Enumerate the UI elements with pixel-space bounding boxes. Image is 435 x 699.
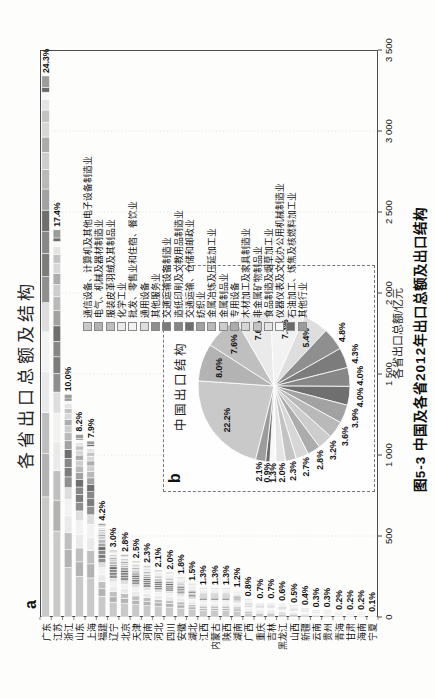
bar-percent-label: 0.3%	[311, 588, 321, 608]
bar-segment	[98, 528, 106, 530]
bar-segment	[98, 558, 106, 562]
legend-swatch-icon	[286, 322, 295, 331]
bar-segment	[53, 274, 61, 285]
legend-swatch-icon	[140, 322, 149, 331]
bar-segment	[166, 600, 174, 603]
bar-segment	[109, 560, 117, 562]
bar-segment	[64, 488, 72, 500]
bar-segment	[211, 611, 219, 617]
bar-segment	[98, 529, 106, 531]
bar-segment	[200, 611, 208, 617]
bar-percent-label: 0.7%	[266, 579, 276, 599]
bar-segment	[76, 480, 84, 487]
legend-swatch-icon	[128, 322, 137, 331]
bar-segment	[87, 578, 95, 617]
pie-percent-label: 4.0%	[355, 366, 365, 386]
bar-segment	[87, 499, 95, 507]
bar-segment	[177, 602, 185, 605]
bar-segment	[109, 567, 117, 570]
bar-segment	[98, 547, 106, 551]
bar-segment	[98, 524, 106, 526]
bar-segment	[222, 608, 230, 610]
bar-segment	[42, 232, 50, 254]
bar-segment	[76, 548, 84, 562]
bar-segment	[143, 583, 151, 585]
bar-segment	[64, 401, 72, 404]
bar-segment	[143, 566, 151, 567]
bar-segment	[132, 588, 140, 592]
bar-segment	[188, 604, 196, 607]
bar-segment	[64, 568, 72, 617]
bar-segment	[211, 608, 219, 610]
legend-item: 其他行业	[297, 156, 308, 331]
bar-segment	[53, 341, 61, 356]
legend-swatch-icon	[117, 322, 126, 331]
bar-segment	[121, 598, 129, 603]
bar-segment	[109, 572, 117, 575]
bar-segment	[177, 590, 185, 592]
bar-segment	[166, 607, 174, 617]
bar-segment	[42, 170, 50, 189]
bar-percent-label: 2.0%	[165, 550, 175, 570]
bar-percent-label: 2.3%	[142, 543, 152, 563]
bar-segment	[132, 585, 140, 588]
bar-segment	[64, 404, 72, 408]
bar-segment	[42, 371, 50, 412]
bar-segment	[76, 460, 84, 466]
bar-segment	[109, 602, 117, 617]
bar-segment	[53, 500, 61, 531]
bar-segment	[98, 537, 106, 540]
bar-segment	[42, 76, 50, 87]
bar-segment	[76, 521, 84, 534]
bar-segment	[233, 609, 241, 611]
bar-segment	[143, 602, 151, 606]
bar-segment	[109, 558, 117, 560]
bar-segment	[143, 575, 151, 577]
bar-segment	[233, 603, 241, 605]
bar-percent-label: 4.2%	[97, 501, 107, 521]
bar-segment	[109, 578, 117, 582]
pie-percent-label: 7.6%	[229, 334, 239, 354]
bar-percent-label: 0.3%	[322, 588, 332, 608]
bar-segment	[121, 555, 129, 556]
bar-segment	[121, 570, 129, 572]
bar-segment	[87, 452, 95, 456]
bar-segment	[245, 613, 253, 617]
bar-segment	[64, 467, 72, 477]
bar-segment	[109, 587, 117, 592]
bar-segment	[64, 419, 72, 425]
bar-segment	[143, 581, 151, 583]
bar-segment	[132, 561, 140, 562]
bar-segment	[98, 568, 106, 575]
legend-swatch-icon	[185, 322, 194, 331]
bar-segment	[143, 594, 151, 598]
bar-segment	[200, 608, 208, 610]
bar-segment	[211, 588, 219, 589]
bar-percent-label: 0.8%	[243, 577, 253, 597]
bar-segment	[121, 575, 129, 578]
bar-segment	[188, 610, 196, 617]
bar-percent-label: 0.5%	[289, 583, 299, 603]
bar-segment	[87, 492, 95, 499]
bar-segment	[143, 587, 151, 590]
bar-segment	[200, 606, 208, 608]
bar-segment	[155, 582, 163, 584]
bar-segment	[109, 592, 117, 597]
bar-segment	[188, 607, 196, 610]
bar-segment	[53, 413, 61, 441]
bar-percent-label: 1.3%	[221, 565, 231, 585]
bar-percent-label: 24.3%	[41, 49, 51, 73]
legend-swatch-icon	[253, 322, 262, 331]
bar-segment	[98, 589, 106, 596]
bar-segment	[64, 394, 72, 399]
legend-label: 其他行业	[296, 282, 309, 318]
bar-segment	[109, 562, 117, 564]
bar-segment	[177, 608, 185, 617]
bar-percent-label: 3.0%	[108, 528, 118, 548]
bar-segment	[87, 478, 95, 485]
bar-segment	[143, 579, 151, 581]
bar-percent-label: 2.5%	[131, 539, 141, 559]
bar-segment	[155, 590, 163, 593]
bar-percent-label: 1.5%	[187, 561, 197, 581]
bar-segment	[233, 607, 241, 609]
